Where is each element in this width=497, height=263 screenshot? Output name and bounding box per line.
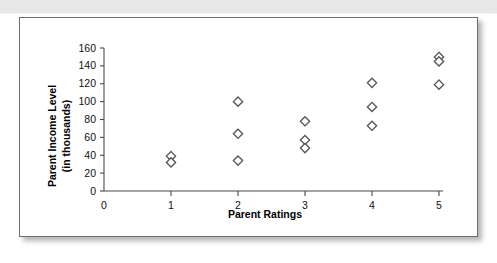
y-tick-label: 0	[90, 185, 96, 197]
x-tick-label: 1	[168, 199, 174, 211]
y-axis-title-line1: Parent Income Level	[46, 85, 58, 187]
x-tick-label: 3	[302, 199, 308, 211]
scan-top-band	[0, 0, 497, 14]
data-point-marker	[300, 144, 309, 153]
y-tick-label: 160	[78, 42, 96, 54]
y-axis-title-line2: (in thousands)	[60, 100, 72, 172]
y-tick-label: 100	[78, 95, 96, 107]
chart-canvas: Parent Income Level (in thousands) Paren…	[20, 18, 477, 236]
y-tick-label: 40	[84, 149, 96, 161]
data-point-marker	[233, 97, 242, 106]
y-tick-label: 140	[78, 59, 96, 71]
scatter-plot: Parent Income Level (in thousands) Paren…	[20, 18, 477, 236]
x-tick-label: 0	[101, 199, 107, 211]
y-tick-label: 20	[84, 167, 96, 179]
data-point-marker	[300, 117, 309, 126]
x-tick-label: 2	[235, 199, 241, 211]
data-point-marker	[367, 121, 376, 130]
data-point-marker	[367, 102, 376, 111]
data-point-marker	[434, 80, 443, 89]
y-axis-ticks: 020406080100120140160	[78, 42, 104, 197]
y-tick-label: 60	[84, 131, 96, 143]
x-tick-label: 5	[436, 199, 442, 211]
data-point-marker	[367, 78, 376, 87]
x-tick-label: 4	[369, 199, 375, 211]
data-point-marker	[166, 158, 175, 167]
data-point-marker	[233, 156, 242, 165]
y-tick-label: 120	[78, 77, 96, 89]
data-points	[166, 52, 443, 167]
figure-panel: Parent Income Level (in thousands) Paren…	[19, 17, 478, 237]
data-point-marker	[233, 129, 242, 138]
y-tick-label: 80	[84, 113, 96, 125]
